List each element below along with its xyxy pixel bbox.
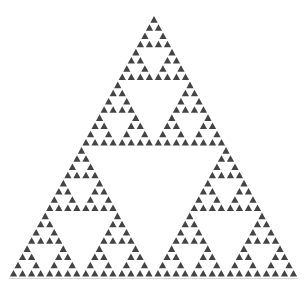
- triangle-cell: [91, 204, 98, 211]
- triangle-cell: [281, 270, 288, 277]
- triangle-cell: [123, 98, 130, 105]
- triangle-cell: [100, 254, 107, 261]
- triangle-cell: [37, 237, 44, 244]
- triangle-cell: [109, 221, 116, 228]
- triangle-cell: [182, 139, 189, 146]
- triangle-cell: [91, 172, 98, 179]
- triangle-cell: [78, 147, 85, 154]
- triangle-cell: [109, 237, 116, 244]
- triangle-cell: [240, 180, 247, 187]
- triangle-cell: [37, 270, 44, 277]
- triangle-cell: [204, 180, 211, 187]
- triangle-cell: [118, 221, 125, 228]
- triangle-cell: [100, 139, 107, 146]
- triangle-cell: [46, 221, 53, 228]
- triangle-cell: [186, 213, 193, 220]
- triangle-cell: [254, 270, 261, 277]
- triangle-cell: [236, 172, 243, 179]
- triangle-cell: [227, 270, 234, 277]
- triangle-cell: [191, 204, 198, 211]
- triangle-cell: [100, 204, 107, 211]
- triangle-cell: [155, 41, 162, 48]
- triangle-cell: [218, 172, 225, 179]
- triangle-cell: [177, 98, 184, 105]
- triangle-cell: [182, 73, 189, 80]
- triangle-cell: [263, 237, 270, 244]
- triangle-cell: [55, 188, 62, 195]
- triangle-cell: [96, 114, 103, 121]
- triangle-cell: [191, 221, 198, 228]
- triangle-cell: [105, 262, 112, 269]
- triangle-cell: [100, 270, 107, 277]
- triangle-cell: [249, 229, 256, 236]
- triangle-cell: [60, 245, 67, 252]
- triangle-cell: [114, 82, 121, 89]
- triangle-cell: [186, 82, 193, 89]
- triangle-cell: [200, 139, 207, 146]
- triangle-cell: [105, 131, 112, 138]
- triangle-cell: [272, 270, 279, 277]
- triangle-cell: [209, 172, 216, 179]
- triangle-cell: [91, 188, 98, 195]
- triangle-cell: [87, 163, 94, 170]
- triangle-cell: [200, 204, 207, 211]
- triangle-cell: [209, 123, 216, 130]
- triangle-cell: [177, 131, 184, 138]
- triangle-cell: [128, 73, 135, 80]
- triangle-cell: [82, 155, 89, 162]
- triangle-cell: [51, 262, 58, 269]
- triangle-cell: [191, 139, 198, 146]
- triangle-cell: [204, 114, 211, 121]
- triangle-group: [10, 16, 297, 276]
- triangle-cell: [218, 204, 225, 211]
- triangle-cell: [191, 106, 198, 113]
- triangle-cell: [218, 139, 225, 146]
- triangle-cell: [87, 196, 94, 203]
- triangle-cell: [60, 180, 67, 187]
- triangle-cell: [127, 254, 134, 261]
- triangle-cell: [119, 90, 126, 97]
- triangle-cell: [213, 131, 220, 138]
- triangle-cell: [69, 196, 76, 203]
- triangle-cell: [236, 254, 243, 261]
- triangle-cell: [119, 139, 126, 146]
- triangle-cell: [227, 204, 234, 211]
- triangle-cell: [10, 270, 17, 277]
- triangle-cell: [200, 254, 207, 261]
- triangle-cell: [200, 270, 207, 277]
- triangle-cell: [290, 270, 297, 277]
- triangle-cell: [236, 204, 243, 211]
- triangle-cell: [19, 270, 26, 277]
- triangle-cell: [209, 270, 216, 277]
- triangle-cell: [91, 270, 98, 277]
- triangle-cell: [213, 163, 220, 170]
- triangle-cell: [123, 262, 130, 269]
- triangle-cell: [64, 254, 71, 261]
- triangle-cell: [155, 24, 162, 31]
- triangle-cell: [281, 254, 288, 261]
- triangle-cell: [195, 131, 202, 138]
- triangle-cell: [154, 270, 161, 277]
- triangle-cell: [200, 237, 207, 244]
- triangle-cell: [137, 57, 144, 64]
- triangle-cell: [177, 262, 184, 269]
- triangle-cell: [245, 270, 252, 277]
- triangle-cell: [168, 114, 175, 121]
- triangle-cell: [159, 65, 166, 72]
- triangle-cell: [177, 229, 184, 236]
- triangle-cell: [137, 41, 144, 48]
- triangle-cell: [69, 262, 76, 269]
- triangle-cell: [249, 262, 256, 269]
- triangle-cell: [164, 139, 171, 146]
- triangle-cell: [132, 49, 139, 56]
- triangle-cell: [218, 155, 225, 162]
- triangle-cell: [173, 237, 180, 244]
- triangle-cell: [123, 229, 130, 236]
- triangle-cell: [276, 245, 283, 252]
- triangle-cell: [168, 49, 175, 56]
- triangle-cell: [137, 73, 144, 80]
- triangle-cell: [249, 196, 256, 203]
- triangle-cell: [109, 270, 116, 277]
- triangle-cell: [141, 32, 148, 39]
- sierpinski-triangle: [0, 0, 308, 283]
